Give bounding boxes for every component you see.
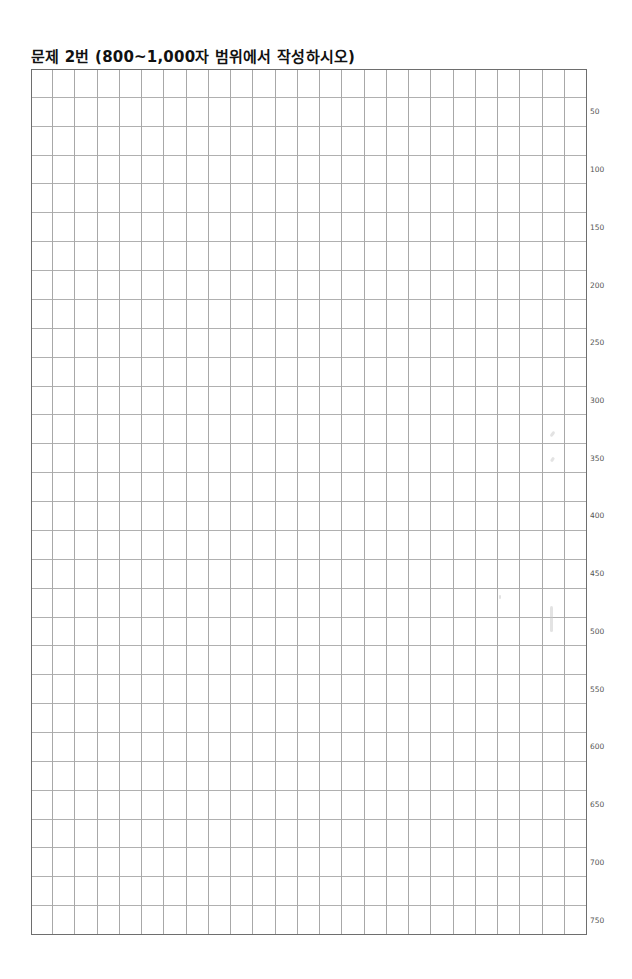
count-label-300: 300 <box>590 396 604 406</box>
manuscript-grid[interactable] <box>31 69 587 935</box>
count-label-200: 200 <box>590 281 604 291</box>
count-label-150: 150 <box>590 223 604 233</box>
count-label-400: 400 <box>590 511 604 521</box>
pencil-mark <box>550 606 553 632</box>
count-label-50: 50 <box>590 107 600 117</box>
count-label-500: 500 <box>590 627 604 637</box>
count-label-100: 100 <box>590 165 604 175</box>
count-label-350: 350 <box>590 454 604 464</box>
count-label-700: 700 <box>590 858 604 868</box>
question-title: 문제 2번 (800~1,000자 범위에서 작성하시오) <box>31 48 355 66</box>
count-label-250: 250 <box>590 338 604 348</box>
count-label-600: 600 <box>590 742 604 752</box>
count-label-750: 750 <box>590 916 604 926</box>
character-count-labels: 50 100 150 200 250 300 350 400 450 500 5… <box>590 69 630 935</box>
pencil-mark <box>499 595 501 599</box>
count-label-550: 550 <box>590 685 604 695</box>
count-label-650: 650 <box>590 800 604 810</box>
count-label-450: 450 <box>590 569 604 579</box>
